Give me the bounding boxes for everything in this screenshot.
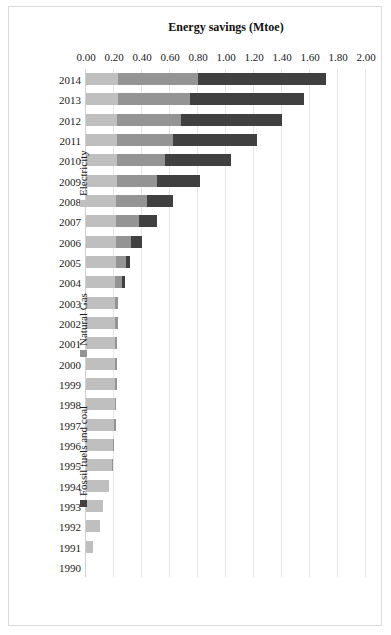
bar-segment-natural-gas	[116, 195, 147, 207]
bar-row	[86, 93, 366, 105]
bar-row	[86, 561, 366, 573]
chart-figure: 1990199119921993199419951996199719981999…	[0, 0, 391, 635]
bar-segment-natural-gas	[117, 175, 158, 187]
bar-segment-electricity	[86, 520, 100, 532]
bar-segment-natural-gas	[115, 378, 117, 390]
bar-row	[86, 358, 366, 370]
bar-segment-electricity	[86, 276, 115, 288]
bar-segment-fossil-fuels-and-coal	[147, 195, 174, 207]
bar-row	[86, 297, 366, 309]
bar-segment-electricity	[86, 317, 115, 329]
bar-row	[86, 154, 366, 166]
chart-rotated-content: 1990199119921993199419951996199719981999…	[9, 7, 383, 627]
value-axis-title: Energy savings (Mtoe)	[86, 20, 366, 35]
bar-row	[86, 439, 366, 451]
legend-label: Electricity	[77, 150, 89, 196]
bar-row	[86, 419, 366, 431]
bar-segment-electricity	[86, 215, 116, 227]
bar-row	[86, 73, 366, 85]
bar-segment-electricity	[86, 134, 117, 146]
legend-item: Natural Gas	[77, 293, 89, 357]
bar-row	[86, 480, 366, 492]
category-label: 1992	[59, 521, 81, 533]
bar-segment-fossil-fuels-and-coal	[157, 175, 200, 187]
bar-segment-electricity	[86, 378, 115, 390]
bar-segment-electricity	[86, 398, 115, 410]
category-label: 1990	[59, 562, 81, 574]
bar-segment-natural-gas	[117, 154, 165, 166]
category-label: 1991	[59, 542, 81, 554]
bar-segment-fossil-fuels-and-coal	[173, 134, 257, 146]
bar-row	[86, 317, 366, 329]
bar-segment-electricity	[86, 439, 113, 451]
bar-segment-natural-gas	[116, 236, 131, 248]
bar-segment-electricity	[86, 480, 109, 492]
bar-row	[86, 256, 366, 268]
bar-segment-natural-gas	[115, 297, 118, 309]
bar-segment-electricity	[86, 459, 112, 471]
bar-segment-electricity	[86, 73, 118, 85]
bar-segment-natural-gas	[117, 114, 181, 126]
bar-segment-electricity	[86, 154, 117, 166]
tick-label: 2.00	[346, 51, 386, 63]
bar-segment-electricity	[86, 195, 116, 207]
bar-segment-electricity	[86, 337, 115, 349]
plot-area	[86, 69, 366, 577]
bar-segment-electricity	[86, 256, 116, 268]
legend-item: Electricity	[77, 150, 89, 207]
bar-row	[86, 175, 366, 187]
bar-segment-fossil-fuels-and-coal	[198, 73, 327, 85]
bar-segment-electricity	[86, 114, 117, 126]
bar-row	[86, 337, 366, 349]
bar-segment-natural-gas	[113, 439, 114, 451]
bar-segment-natural-gas	[112, 459, 113, 471]
bar-row	[86, 398, 366, 410]
bar-segment-natural-gas	[118, 93, 191, 105]
bar-row	[86, 215, 366, 227]
category-label: 2013	[59, 94, 81, 106]
bar-segment-natural-gas	[115, 398, 116, 410]
legend-square-marker-icon	[80, 200, 87, 207]
bar-segment-natural-gas	[114, 419, 115, 431]
chart-frame: 1990199119921993199419951996199719981999…	[8, 6, 382, 626]
bar-segment-electricity	[86, 541, 93, 553]
bar-segment-fossil-fuels-and-coal	[139, 215, 157, 227]
bar-segment-electricity	[86, 175, 117, 187]
bar-segment-natural-gas	[115, 337, 117, 349]
legend-label: Natural Gas	[77, 293, 89, 346]
bar-segment-fossil-fuels-and-coal	[165, 154, 231, 166]
bar-segment-fossil-fuels-and-coal	[122, 276, 125, 288]
bar-segment-fossil-fuels-and-coal	[181, 114, 282, 126]
bar-segment-electricity	[86, 236, 116, 248]
category-label: 2012	[59, 115, 81, 127]
category-label: 2014	[59, 74, 81, 86]
bar-row	[86, 114, 366, 126]
legend-label: Fossil fuels and coal	[77, 406, 89, 496]
bar-segment-natural-gas	[115, 358, 117, 370]
bar-row	[86, 276, 366, 288]
bar-row	[86, 500, 366, 512]
bar-segment-natural-gas	[115, 317, 118, 329]
bar-segment-fossil-fuels-and-coal	[131, 236, 142, 248]
bar-row	[86, 541, 366, 553]
bar-segment-natural-gas	[116, 215, 139, 227]
bar-segment-electricity	[86, 419, 114, 431]
bar-segment-electricity	[86, 93, 118, 105]
bar-segment-natural-gas	[116, 256, 126, 268]
bar-segment-natural-gas	[117, 134, 173, 146]
legend-square-marker-icon	[80, 350, 87, 357]
bar-row	[86, 520, 366, 532]
bar-segment-electricity	[86, 358, 115, 370]
legend-item: Fossil fuels and coal	[77, 406, 89, 507]
bar-segment-natural-gas	[115, 276, 122, 288]
bar-row	[86, 134, 366, 146]
bar-row	[86, 195, 366, 207]
bar-row	[86, 236, 366, 248]
bar-segment-natural-gas	[118, 73, 198, 85]
bar-segment-fossil-fuels-and-coal	[126, 256, 131, 268]
legend-square-marker-icon	[80, 500, 87, 507]
bar-row	[86, 459, 366, 471]
bar-row	[86, 378, 366, 390]
bar-segment-fossil-fuels-and-coal	[190, 93, 303, 105]
chart-legend: Fossil fuels and coalNatural GasElectric…	[17, 127, 77, 507]
